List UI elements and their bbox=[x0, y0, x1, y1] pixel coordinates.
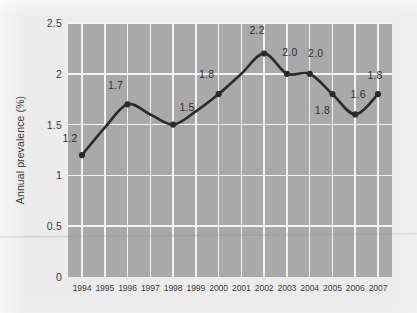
x-axis-tick-label: 1999 bbox=[186, 283, 205, 293]
data-point-marker bbox=[261, 50, 267, 56]
y-axis-tick-label: 2 bbox=[56, 68, 62, 80]
plot-area: 1.21.71.51.82.22.02.01.81.61.8 00.511.52… bbox=[68, 23, 392, 277]
data-point-label: 1.8 bbox=[199, 68, 214, 80]
data-point-marker bbox=[375, 91, 381, 97]
y-axis-tick-label: 0 bbox=[56, 271, 62, 283]
x-axis-tick-label: 1996 bbox=[118, 283, 137, 293]
x-axis-tick-label: 1997 bbox=[141, 283, 160, 293]
data-point-label: 2.2 bbox=[250, 24, 265, 36]
data-point-label: 1.8 bbox=[315, 104, 330, 116]
x-axis-tick-label: 1995 bbox=[95, 283, 114, 293]
x-axis-tick-label: 2001 bbox=[232, 283, 251, 293]
y-axis-tick-label: 0.5 bbox=[47, 220, 62, 232]
data-point-marker bbox=[329, 91, 335, 97]
data-point-marker bbox=[216, 91, 222, 97]
x-axis-tick-label: 2002 bbox=[255, 283, 274, 293]
y-axis-tick-label: 1 bbox=[56, 169, 62, 181]
y-axis-title: Annual prevalence (%) bbox=[14, 96, 26, 204]
x-axis-tick-label: 1994 bbox=[73, 283, 92, 293]
data-point-marker bbox=[124, 101, 130, 107]
chart-figure: Annual prevalence (%) 1.21.71.51.82.22.0… bbox=[0, 0, 417, 313]
data-point-marker bbox=[307, 71, 313, 77]
x-axis-tick-label: 2004 bbox=[300, 283, 319, 293]
data-point-marker bbox=[79, 152, 85, 158]
data-point-label: 1.7 bbox=[108, 79, 123, 91]
x-axis-tick-label: 1998 bbox=[164, 283, 183, 293]
data-point-label: 1.6 bbox=[351, 88, 366, 100]
x-axis-tick-label: 2005 bbox=[323, 283, 342, 293]
data-point-label: 1.5 bbox=[179, 101, 194, 113]
x-axis-tick-label: 2003 bbox=[278, 283, 297, 293]
data-point-label: 1.8 bbox=[367, 69, 382, 81]
x-axis-tick-label: 2007 bbox=[369, 283, 388, 293]
x-axis-tick-label: 2000 bbox=[209, 283, 228, 293]
data-point-label: 2.0 bbox=[308, 47, 323, 59]
line-series bbox=[68, 23, 392, 277]
data-point-label: 1.2 bbox=[62, 132, 77, 144]
x-axis-tick-label: 2006 bbox=[346, 283, 365, 293]
y-axis-tick-label: 2.5 bbox=[47, 17, 62, 29]
data-point-marker bbox=[352, 111, 358, 117]
data-point-label: 2.0 bbox=[282, 46, 297, 58]
y-axis-tick-label: 1.5 bbox=[47, 119, 62, 131]
data-point-marker bbox=[170, 122, 176, 128]
data-point-marker bbox=[284, 71, 290, 77]
